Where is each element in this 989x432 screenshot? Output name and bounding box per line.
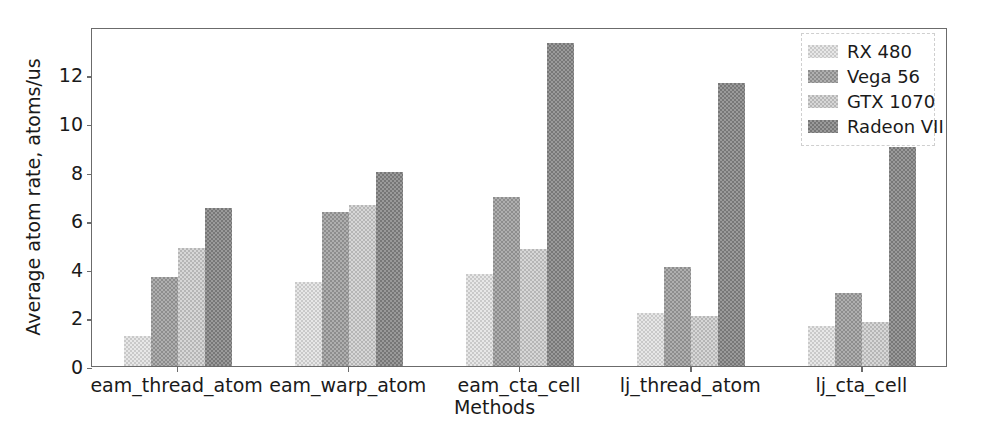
bar[interactable] <box>808 326 835 366</box>
x-tick-mark <box>690 367 691 372</box>
bar[interactable] <box>889 147 916 366</box>
bar[interactable] <box>151 277 178 366</box>
x-tick-label: lj_thread_atom <box>620 374 761 396</box>
bar[interactable] <box>637 313 664 366</box>
legend-label: RX 480 <box>847 41 912 62</box>
legend-swatch <box>808 95 838 108</box>
y-tick-label: 8 <box>43 162 83 184</box>
x-axis-tick-marks <box>91 367 947 373</box>
legend-swatch <box>808 45 838 58</box>
bar[interactable] <box>322 212 349 366</box>
bar[interactable] <box>547 43 574 366</box>
bar[interactable] <box>718 83 745 366</box>
y-tick-mark <box>87 125 92 126</box>
y-tick-mark <box>87 76 92 77</box>
y-tick-mark <box>87 271 92 272</box>
bar[interactable] <box>295 282 322 366</box>
legend-swatch <box>808 70 838 83</box>
legend-item[interactable]: RX 480 <box>808 39 928 64</box>
x-tick-mark <box>861 367 862 372</box>
x-axis-title: Methods <box>0 396 989 418</box>
x-tick-mark <box>348 367 349 372</box>
legend-label: GTX 1070 <box>847 91 935 112</box>
x-tick-mark <box>177 367 178 372</box>
bar[interactable] <box>205 208 232 366</box>
bar-group <box>637 29 745 366</box>
x-tick-label: lj_cta_cell <box>815 374 907 396</box>
bar[interactable] <box>664 267 691 366</box>
y-axis-title: Average atom rate, atoms/us <box>22 47 44 347</box>
x-tick-label: eam_warp_atom <box>269 374 426 396</box>
bar[interactable] <box>493 197 520 366</box>
y-tick-label: 4 <box>43 259 83 281</box>
bar-chart-figure: 024681012 eam_thread_atomeam_warp_atomea… <box>0 0 989 432</box>
bar-group <box>124 29 232 366</box>
legend-item[interactable]: Radeon VII <box>808 114 928 139</box>
y-tick-label: 2 <box>43 307 83 329</box>
x-tick-mark <box>519 367 520 372</box>
bar[interactable] <box>520 249 547 366</box>
legend-item[interactable]: Vega 56 <box>808 64 928 89</box>
x-tick-label: eam_cta_cell <box>457 374 580 396</box>
bar[interactable] <box>349 205 376 366</box>
bar-group <box>466 29 574 366</box>
legend-label: Vega 56 <box>847 66 920 87</box>
bar[interactable] <box>178 248 205 366</box>
bar-group <box>295 29 403 366</box>
y-tick-mark <box>87 319 92 320</box>
y-tick-label: 10 <box>43 113 83 135</box>
y-axis-tick-labels: 024681012 <box>38 28 83 367</box>
bar[interactable] <box>124 336 151 366</box>
legend-item[interactable]: GTX 1070 <box>808 89 928 114</box>
bar[interactable] <box>862 322 889 366</box>
bar[interactable] <box>691 316 718 366</box>
legend[interactable]: RX 480Vega 56GTX 1070Radeon VII <box>801 33 935 146</box>
bar[interactable] <box>835 293 862 366</box>
y-tick-label: 6 <box>43 210 83 232</box>
bar[interactable] <box>376 172 403 366</box>
y-tick-mark <box>87 174 92 175</box>
y-tick-mark <box>87 222 92 223</box>
y-tick-label: 0 <box>43 356 83 378</box>
x-tick-label: eam_thread_atom <box>90 374 262 396</box>
legend-swatch <box>808 120 838 133</box>
legend-label: Radeon VII <box>847 116 944 137</box>
y-tick-label: 12 <box>43 64 83 86</box>
bar[interactable] <box>466 274 493 366</box>
